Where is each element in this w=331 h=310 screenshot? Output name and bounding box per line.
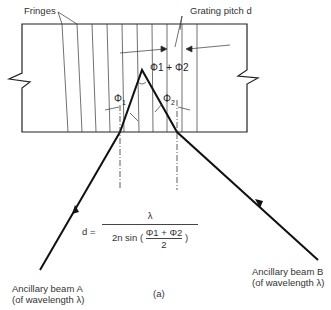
- beam-b-line1: Ancillary beam B: [252, 266, 324, 277]
- phi-sum-text: Φ1 + Φ2: [150, 62, 188, 73]
- phi2-symbol: Φ: [163, 93, 171, 104]
- formula-bar: [102, 224, 198, 225]
- phi1-symbol: Φ: [114, 93, 122, 104]
- formula-den-prefix: 2n sin (: [112, 232, 143, 243]
- beam-a-label: Ancillary beam A (of wavelength λ): [12, 283, 84, 305]
- normals: [120, 100, 177, 190]
- formula-inner-denominator: 2: [146, 239, 183, 250]
- phi2-subscript: 2: [171, 99, 175, 106]
- figure-caption: (a): [153, 288, 165, 299]
- specimen-outline: [9, 24, 258, 132]
- fringes-leader: [58, 12, 77, 24]
- phi2-label: Φ2: [163, 93, 175, 106]
- beam-a-line1: Ancillary beam A: [12, 283, 84, 294]
- formula-fraction: λ 2n sin ( Φ1 + Φ2 2 ): [102, 210, 198, 250]
- beam-b-label: Ancillary beam B (of wavelength λ): [252, 266, 324, 288]
- formula-numerator: λ: [102, 210, 198, 222]
- grating-pitch-leader: [120, 16, 230, 53]
- formula-den-suffix: ): [185, 232, 188, 243]
- beam-b-line2: (of wavelength λ): [252, 277, 324, 288]
- grating-diagram: [0, 0, 331, 310]
- formula-lhs: d =: [82, 226, 95, 237]
- fringes-label: Fringes: [24, 5, 56, 16]
- formula-denominator: 2n sin ( Φ1 + Φ2 2 ): [102, 227, 198, 250]
- phi-sum-label: Φ1 + Φ2: [150, 62, 188, 73]
- phi1-subscript: 1: [122, 99, 126, 106]
- formula-inner-fraction: Φ1 + Φ2 2: [146, 227, 183, 250]
- grating-pitch-label: Grating pitch d: [190, 5, 252, 16]
- beam-a-line2: (of wavelength λ): [12, 294, 84, 305]
- formula-inner-numerator: Φ1 + Φ2: [146, 227, 183, 238]
- phi1-label: Φ1: [114, 93, 126, 106]
